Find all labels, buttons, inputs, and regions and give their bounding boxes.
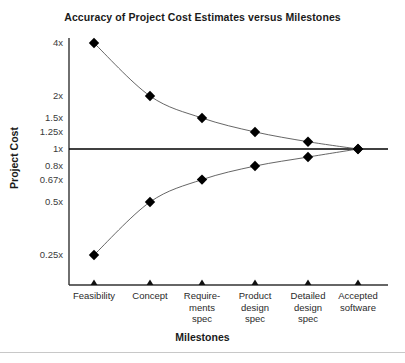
y-tick-label: 1x — [53, 143, 63, 154]
x-tick-label-line: Product — [226, 290, 284, 302]
y-tick-label: 0.67x — [40, 174, 63, 185]
x-tick-label-line: spec — [173, 313, 231, 325]
axes — [69, 38, 388, 285]
x-tick-label: Acceptedsoftware — [329, 290, 387, 313]
x-axis-ticks — [91, 280, 362, 286]
x-tick-label-line: Feasibility — [65, 290, 123, 302]
y-tick-label: 2x — [53, 90, 63, 101]
x-tick-label: Require-mentsspec — [173, 290, 231, 325]
y-tick-label: 4x — [53, 37, 63, 48]
x-tick-label-line: design — [226, 302, 284, 314]
x-tick-label: Feasibility — [65, 290, 123, 302]
chart-figure: Accuracy of Project Cost Estimates versu… — [0, 0, 405, 363]
x-tick-label-line: ments — [173, 302, 231, 314]
x-tick-label-line: Require- — [173, 290, 231, 302]
y-tick-label: 0.25x — [40, 249, 63, 260]
y-tick-label: 0.8x — [45, 160, 63, 171]
x-tick-label-line: spec — [226, 313, 284, 325]
x-tick-label-line: software — [329, 302, 387, 314]
x-tick-label: Concept — [121, 290, 179, 302]
x-tick-label-line: spec — [279, 313, 337, 325]
x-tick-label-line: Accepted — [329, 290, 387, 302]
y-tick-label: 1.25x — [40, 126, 63, 137]
x-tick-label: Productdesignspec — [226, 290, 284, 325]
y-tick-label: 0.5x — [45, 196, 63, 207]
y-tick-label: 1.5x — [45, 112, 63, 123]
figure-bottom-divider — [0, 352, 405, 353]
x-tick-label-line: Concept — [121, 290, 179, 302]
